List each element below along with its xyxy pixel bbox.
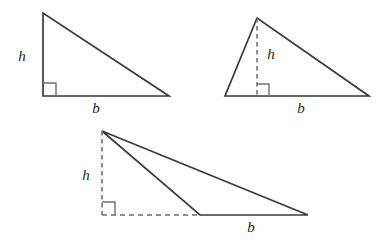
acute-triangle-right-angle-icon (257, 84, 269, 96)
triangle-figure: h b h b h b (0, 0, 389, 248)
right-triangle-outline (43, 13, 169, 96)
acute-triangle-outline (225, 18, 369, 96)
obtuse-triangle: h b (82, 131, 308, 235)
obtuse-triangle-height-label: h (82, 167, 90, 183)
acute-triangle-height-label: h (267, 46, 275, 62)
obtuse-triangle-outline (102, 131, 308, 215)
right-triangle-height-label: h (18, 48, 26, 64)
right-triangle-right-angle-icon (43, 83, 56, 96)
obtuse-triangle-right-angle-icon (102, 202, 115, 215)
triangle-figure-canvas: h b h b h b (0, 0, 389, 248)
right-triangle: h b (18, 13, 169, 116)
acute-triangle: h b (225, 18, 369, 116)
obtuse-triangle-base-label: b (247, 219, 255, 235)
right-triangle-base-label: b (92, 100, 100, 116)
acute-triangle-base-label: b (297, 100, 305, 116)
